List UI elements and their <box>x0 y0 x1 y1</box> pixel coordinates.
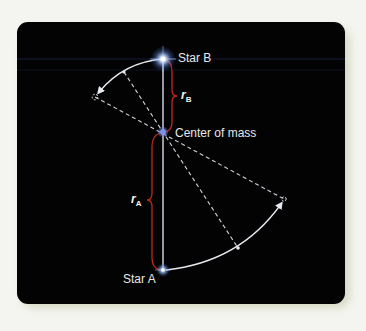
orbit-diagram <box>0 0 366 331</box>
arc-marker-b <box>122 70 125 73</box>
center-of-mass-icon <box>158 127 168 137</box>
bracket-r-a <box>147 133 160 270</box>
label-r-a-sub: A <box>136 199 142 208</box>
star-b-icon <box>150 46 176 72</box>
label-r-a: rA <box>131 192 141 208</box>
arc-marker-a <box>236 246 240 250</box>
star-a-icon <box>155 263 171 277</box>
ghost-star-a <box>282 197 286 201</box>
orbit-arc-a <box>166 204 281 270</box>
label-star-b: Star B <box>178 51 211 65</box>
label-star-a: Star A <box>123 272 156 286</box>
label-r-b-sub: B <box>186 95 192 104</box>
label-center-of-mass: Center of mass <box>175 126 256 140</box>
label-r-b: rB <box>181 88 191 104</box>
